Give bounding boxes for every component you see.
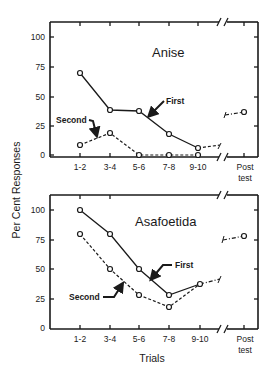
arrow-icon: [89, 120, 96, 133]
panel-title: Anise: [152, 45, 185, 60]
annotation-first: First: [166, 96, 185, 106]
panel-title: Asafoetida: [135, 214, 197, 229]
x-ticks: [80, 22, 244, 157]
x-tick-label: 3-4: [104, 334, 117, 344]
series-first-extension: [198, 145, 220, 148]
y-tick-label: 25: [36, 294, 46, 304]
x-tick-label: 7-8: [163, 334, 176, 344]
x-tick-label: 9-10: [191, 334, 208, 344]
y-tick-label: 100: [31, 32, 45, 42]
y-tick-label: 100: [31, 205, 45, 215]
x-tick-label: Post: [236, 162, 254, 172]
y-axis-title: Per Cent Responses: [10, 142, 22, 239]
arrow-icon: [151, 101, 164, 114]
data-markers: [78, 71, 247, 158]
annotation-second: Second: [69, 292, 100, 302]
x-axis-title: Trials: [139, 352, 164, 364]
x-tick-label: 5-6: [133, 334, 146, 344]
panel-anise: 100 75 50 25 0 1-2 3-4 5-6 7-8 9-10 Post…: [31, 18, 258, 183]
break-tick: [218, 143, 221, 149]
x-tick-label: Post: [236, 334, 254, 344]
axis-break-icon: [217, 191, 228, 333]
y-tick-label: 50: [36, 264, 46, 274]
panel-asafoetida: 100 75 50 25 0 1-2 3-4 5-6 7-8 9-10 Post…: [31, 191, 258, 355]
x-tick-label: test: [238, 345, 252, 355]
x-tick-label: 9-10: [189, 162, 206, 172]
annotation-second: Second: [56, 115, 87, 125]
x-tick-label: 3-4: [104, 162, 117, 172]
series-second-line: [80, 133, 198, 155]
x-tick-label: 1-2: [74, 334, 87, 344]
annotation-first: First: [175, 260, 194, 270]
y-tick-label: 75: [36, 62, 46, 72]
chart-figure: 100 75 50 25 0 1-2 3-4 5-6 7-8 9-10 Post…: [0, 0, 276, 379]
arrow-icon: [103, 286, 121, 297]
axis-break-icon: [217, 18, 228, 161]
y-tick-label: 75: [36, 235, 46, 245]
y-tick-label: 50: [36, 92, 46, 102]
x-tick-label: 7-8: [163, 162, 176, 172]
x-tick-label: test: [238, 173, 252, 183]
y-tick-label: 0: [40, 150, 45, 160]
frame: [50, 22, 258, 157]
y-tick-label: 0: [40, 323, 45, 333]
x-tick-label: 5-6: [133, 162, 146, 172]
y-tick-label: 25: [36, 121, 46, 131]
arrow-icon: [153, 265, 172, 277]
series-first-post: [223, 236, 244, 240]
x-tick-label: 1-2: [74, 162, 87, 172]
